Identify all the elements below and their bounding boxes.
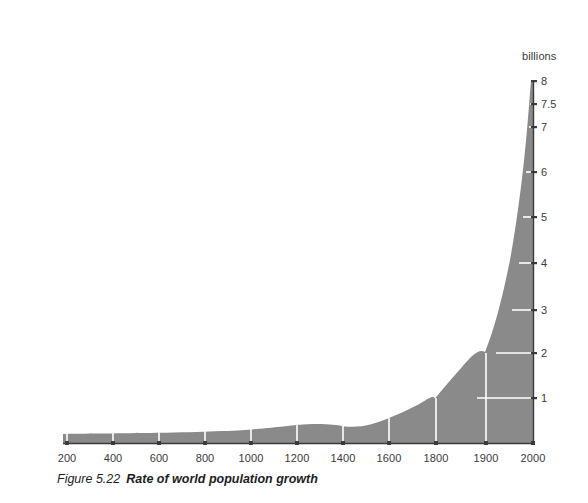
x-tick-dot-1800: [434, 441, 438, 445]
x-tick-dot-800: [203, 441, 207, 445]
y-tick-label-2: 2: [541, 347, 547, 359]
x-tick-dot-1200: [295, 441, 299, 445]
y-tick-2: [531, 352, 537, 354]
y-tick-5: [531, 216, 537, 218]
y-tick-label-3: 3: [541, 304, 547, 316]
y-tick-label-5: 5: [541, 211, 547, 223]
y-tick-75: [531, 103, 537, 105]
figure-title: Rate of world population growth: [126, 472, 318, 486]
figure-caption: Figure 5.22Rate of world population grow…: [57, 472, 318, 486]
x-tick-label-1200: 1200: [285, 452, 310, 464]
x-tick-label-1900: 1900: [474, 452, 499, 464]
x-tick-dot-600: [157, 441, 161, 445]
x-tick-label-600: 600: [150, 452, 169, 464]
x-tick-dot-1000: [249, 441, 253, 445]
y-tick-1: [531, 397, 537, 399]
x-tick-dot-1600: [387, 441, 391, 445]
y-tick-label-7: 7: [541, 121, 547, 133]
x-tick-dot-1400: [341, 441, 345, 445]
y-tick-label-1: 1: [541, 392, 547, 404]
x-tick-label-1400: 1400: [331, 452, 356, 464]
figure-container: billions 8 7.5 7 6 5 4 3 2 1 200 400 600…: [0, 0, 588, 503]
chart-plot-area: [63, 81, 533, 443]
population-growth-area-chart: [0, 0, 588, 503]
x-tick-dot-400: [111, 441, 115, 445]
y-tick-label-4: 4: [541, 257, 547, 269]
x-tick-label-200: 200: [58, 452, 77, 464]
y-tick-label-7-5: 7.5: [541, 98, 557, 110]
x-tick-label-1600: 1600: [377, 452, 402, 464]
y-tick-4: [531, 262, 537, 264]
y-tick-8: [531, 80, 537, 82]
y-tick-label-6: 6: [541, 166, 547, 178]
y-tick-6: [531, 171, 537, 173]
population-area-fill: [63, 81, 533, 443]
x-tick-dot-2000: [531, 441, 535, 445]
y-tick-3: [531, 309, 537, 311]
y-tick-7: [531, 126, 537, 128]
figure-number: Figure 5.22: [57, 472, 120, 486]
y-tick-label-8: 8: [541, 75, 547, 87]
x-tick-dot-200: [65, 441, 69, 445]
x-tick-dot-1900: [484, 441, 488, 445]
x-tick-label-2000: 2000: [521, 452, 546, 464]
x-tick-label-1800: 1800: [424, 452, 449, 464]
x-tick-label-1000: 1000: [239, 452, 264, 464]
x-tick-label-800: 800: [196, 452, 215, 464]
x-tick-label-400: 400: [104, 452, 123, 464]
y-axis-unit-label: billions: [522, 50, 556, 62]
